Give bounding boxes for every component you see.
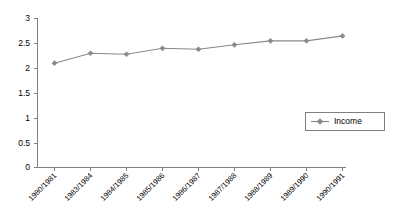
line-chart: 3 2.5 2 1.5 1 0.5 0 1980/1981 1983/1984 … xyxy=(0,0,393,221)
data-point xyxy=(196,47,201,52)
x-tick-label-5: 1987/1988 xyxy=(207,171,239,203)
x-tick-label-2: 1984/1985 xyxy=(99,171,131,203)
legend-label-income: Income xyxy=(334,116,362,126)
x-tick-label-6: 1988/1989 xyxy=(243,171,275,203)
x-tick-label-8: 1990/1991 xyxy=(315,171,347,203)
y-tick-label-2: 2 xyxy=(25,63,30,73)
y-tick-label-1-5: 1.5 xyxy=(18,88,30,98)
series-income-markers xyxy=(52,33,345,66)
data-point xyxy=(124,52,129,57)
y-axis: 3 2.5 2 1.5 1 0.5 0 xyxy=(18,13,37,172)
legend: Income xyxy=(306,113,385,131)
chart-canvas: 3 2.5 2 1.5 1 0.5 0 1980/1981 1983/1984 … xyxy=(0,0,393,221)
data-point xyxy=(340,33,345,38)
y-tick-label-1: 1 xyxy=(25,113,30,123)
y-tick-label-0: 0 xyxy=(25,162,30,172)
x-tick-label-0: 1980/1981 xyxy=(27,171,59,203)
data-point xyxy=(160,46,165,51)
x-tick-label-1: 1983/1984 xyxy=(63,171,95,203)
data-point xyxy=(88,51,93,56)
y-tick-label-2-5: 2.5 xyxy=(18,38,30,48)
x-tick-label-7: 1989/1990 xyxy=(279,171,311,203)
data-point xyxy=(304,38,309,43)
data-point xyxy=(232,42,237,47)
x-tick-label-3: 1985/1986 xyxy=(135,171,167,203)
y-tick-label-0-5: 0.5 xyxy=(18,138,30,148)
data-point xyxy=(268,38,273,43)
x-tick-label-4: 1986/1987 xyxy=(171,171,203,203)
y-tick-label-3: 3 xyxy=(25,13,30,23)
x-axis: 1980/1981 1983/1984 1984/1985 1985/1986 … xyxy=(27,168,347,203)
data-point xyxy=(52,61,57,66)
series-income xyxy=(52,33,345,66)
